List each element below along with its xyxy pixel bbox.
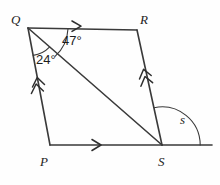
segment-QS-diagonal bbox=[28, 28, 162, 145]
angle-label-24: 24° bbox=[36, 53, 56, 66]
segment-RS bbox=[137, 30, 162, 145]
vertex-label-S: S bbox=[158, 155, 165, 168]
vertex-label-P: P bbox=[40, 155, 48, 168]
angle-label-47: 47° bbox=[62, 34, 82, 47]
angle-label-s: s bbox=[180, 113, 185, 126]
parallel-mark-QR-single-arrow bbox=[72, 21, 81, 31]
segment-QR bbox=[28, 28, 137, 30]
vertex-label-R: R bbox=[140, 13, 148, 26]
figure-canvas bbox=[0, 0, 220, 185]
vertex-label-Q: Q bbox=[11, 13, 20, 26]
geometry-figure: Q R S P 47° 24° s bbox=[0, 0, 220, 185]
parallel-mark-RS-double-arrow bbox=[140, 69, 153, 86]
